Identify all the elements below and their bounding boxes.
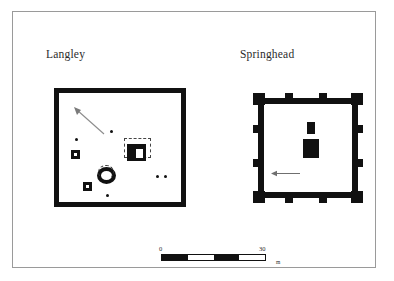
scale-bar <box>161 254 266 261</box>
scale-segment <box>214 255 240 260</box>
figure-frame: Langley Springhead <box>12 11 376 268</box>
site-plan-springhead <box>253 93 363 203</box>
site-label-langley: Langley <box>46 48 85 60</box>
corner-tower <box>253 191 265 203</box>
west-arrow-icon <box>271 169 301 178</box>
interior-building-large <box>303 139 319 158</box>
corner-tower <box>351 191 363 203</box>
pit-dot <box>164 175 167 178</box>
temple-complex <box>124 138 151 165</box>
site-plan-langley <box>54 88 186 207</box>
pit-dot <box>110 130 113 133</box>
interval-tower <box>357 125 363 133</box>
corner-tower <box>351 93 363 105</box>
interval-tower <box>319 197 327 203</box>
shrine-dashed-arc <box>98 165 114 179</box>
interior-building-small <box>307 122 315 134</box>
square-barrow <box>83 182 92 191</box>
pit-dot <box>156 175 159 178</box>
interval-tower <box>319 93 327 99</box>
interval-tower <box>285 93 293 99</box>
scale-segment <box>162 255 188 260</box>
temple-cella <box>135 148 144 159</box>
site-label-springhead: Springhead <box>240 48 294 60</box>
figure-page: Langley Springhead <box>0 0 394 281</box>
north-arrow-icon <box>72 106 106 136</box>
corner-tower <box>253 93 265 105</box>
interval-tower <box>285 197 293 203</box>
circular-shrine <box>97 165 116 184</box>
scale-max-label: 30 <box>259 245 266 252</box>
scale-segment <box>239 255 265 260</box>
scale-segment <box>188 255 214 260</box>
scale-unit-label: m <box>276 259 280 265</box>
interval-tower <box>357 159 363 167</box>
square-barrow <box>71 150 80 159</box>
scale-min-label: 0 <box>159 245 162 252</box>
pit-dot <box>75 138 78 141</box>
interval-tower <box>253 159 259 167</box>
temple-building <box>127 144 146 161</box>
pit-dot <box>106 194 109 197</box>
interval-tower <box>253 125 259 133</box>
